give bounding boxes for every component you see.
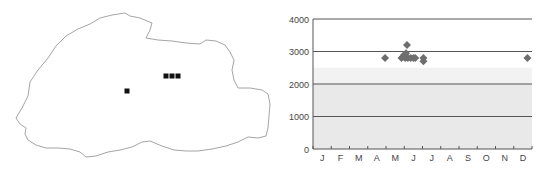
x-tick-label: J xyxy=(411,153,416,163)
y-tick-label: 1000 xyxy=(289,112,309,122)
x-tick-label: A xyxy=(374,153,380,163)
x-tick-label: A xyxy=(447,153,453,163)
data-point xyxy=(403,41,411,49)
x-tick-label: D xyxy=(520,153,527,163)
x-tick-label: M xyxy=(355,153,363,163)
x-tick-label: M xyxy=(391,153,399,163)
elevation-band xyxy=(313,68,532,84)
data-point xyxy=(523,54,531,62)
y-tick-label: 3000 xyxy=(289,47,309,57)
distribution-map xyxy=(0,0,275,172)
locality-marker xyxy=(164,74,169,79)
map-svg xyxy=(0,0,275,172)
y-tick-label: 0 xyxy=(304,145,309,155)
x-tick-label: S xyxy=(465,153,471,163)
y-tick-label: 2000 xyxy=(289,80,309,90)
locality-marker xyxy=(170,74,175,79)
elevation-chart: 01000200030004000JFMAMJJASOND xyxy=(275,0,549,172)
y-tick-label: 4000 xyxy=(289,15,309,25)
locality-marker xyxy=(125,89,130,94)
x-tick-label: J xyxy=(320,153,325,163)
x-tick-label: O xyxy=(483,153,490,163)
country-outline xyxy=(16,13,270,157)
x-tick-label: N xyxy=(501,153,508,163)
x-tick-label: J xyxy=(429,153,434,163)
x-tick-label: F xyxy=(338,153,344,163)
chart-svg: 01000200030004000JFMAMJJASOND xyxy=(275,0,549,172)
data-point xyxy=(381,54,389,62)
locality-marker xyxy=(176,74,181,79)
